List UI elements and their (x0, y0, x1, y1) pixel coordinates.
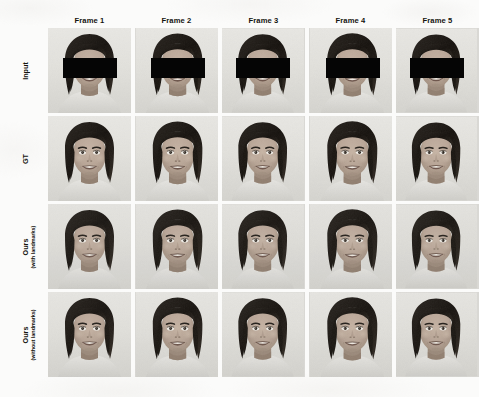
grid-cell-ours-with-frame5 (396, 204, 479, 289)
column-header-frame2: Frame 2 (135, 15, 218, 26)
grid-cell-gt-frame5 (396, 116, 479, 201)
grid-cell-input-frame4 (309, 28, 392, 113)
grid-cell-input-frame2 (135, 28, 218, 113)
row-label-sublabel: (with landmarks) (29, 204, 35, 289)
face-portrait-image (396, 116, 479, 201)
grid-cell-ours-without-frame3 (222, 292, 305, 377)
face-portrait-image (48, 292, 131, 377)
face-portrait-image (48, 116, 131, 201)
grid-cell-ours-with-frame3 (222, 204, 305, 289)
row-label-input: Input (21, 28, 41, 113)
face-portrait-image (135, 116, 218, 201)
grid-cell-ours-without-frame4 (309, 292, 392, 377)
eye-censor-bar (236, 58, 290, 78)
row-label-title: Ours (20, 238, 29, 255)
row-label-title: GT (20, 154, 29, 164)
face-portrait-image (48, 204, 131, 289)
column-header-frame1: Frame 1 (48, 15, 131, 26)
grid-cell-ours-without-frame2 (135, 292, 218, 377)
eye-censor-bar (63, 58, 117, 78)
face-portrait-image (396, 292, 479, 377)
row-label-gt: GT (21, 116, 41, 201)
row-label-ours-with: Ours(with landmarks) (21, 204, 41, 289)
grid-cell-input-frame5 (396, 28, 479, 113)
face-portrait-image (222, 292, 305, 377)
eye-censor-bar (410, 58, 464, 78)
grid-cell-ours-with-frame1 (48, 204, 131, 289)
row-label-ours-without: Ours(without landmarks) (21, 292, 41, 377)
grid-cell-gt-frame3 (222, 116, 305, 201)
grid-cell-gt-frame4 (309, 116, 392, 201)
face-portrait-image (309, 292, 392, 377)
face-portrait-image (135, 292, 218, 377)
grid-cell-input-frame1 (48, 28, 131, 113)
grid-cell-gt-frame1 (48, 116, 131, 201)
column-header-frame5: Frame 5 (396, 15, 479, 26)
eye-censor-bar (151, 58, 205, 78)
grid-cell-gt-frame2 (135, 116, 218, 201)
grid-cell-ours-without-frame1 (48, 292, 131, 377)
face-portrait-image (222, 116, 305, 201)
face-portrait-image (222, 204, 305, 289)
grid-cell-ours-with-frame4 (309, 204, 392, 289)
column-header-frame3: Frame 3 (222, 15, 305, 26)
face-portrait-image (309, 116, 392, 201)
column-header-frame4: Frame 4 (309, 15, 392, 26)
face-portrait-image (396, 204, 479, 289)
row-label-sublabel: (without landmarks) (29, 292, 35, 377)
row-label-title: Input (20, 62, 29, 80)
grid-cell-input-frame3 (222, 28, 305, 113)
eye-censor-bar (326, 58, 380, 78)
grid-cell-ours-with-frame2 (135, 204, 218, 289)
grid-cell-ours-without-frame5 (396, 292, 479, 377)
face-portrait-image (135, 204, 218, 289)
face-portrait-image (309, 204, 392, 289)
row-label-title: Ours (20, 326, 29, 343)
